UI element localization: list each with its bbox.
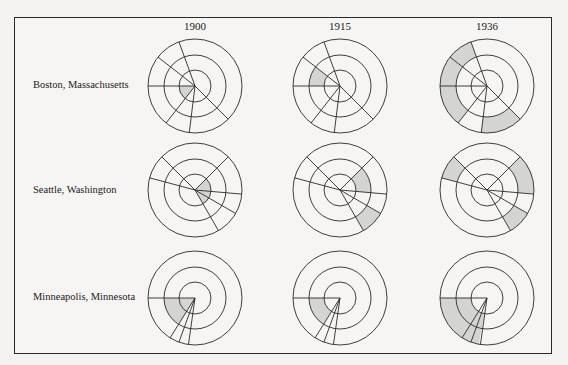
radial-plot-boston-1936: [440, 39, 534, 133]
radial-plot-minneapolis-1936: [440, 251, 534, 345]
ray: [333, 298, 340, 345]
ray: [195, 86, 228, 119]
shaded-sector: [509, 157, 534, 194]
shaded-sector: [481, 108, 520, 133]
ray: [195, 190, 236, 214]
ray: [487, 190, 511, 231]
ray: [340, 190, 381, 214]
ray: [334, 86, 340, 133]
shaded-sector: [351, 168, 371, 193]
radial-plots: [0, 0, 568, 365]
ray: [162, 157, 195, 190]
ray: [189, 86, 195, 133]
radial-plot-seattle-1900: [148, 143, 242, 237]
ray: [340, 190, 364, 231]
shaded-sector: [440, 42, 476, 123]
radial-plot-seattle-1915: [293, 143, 387, 237]
ray: [487, 190, 528, 214]
radial-plot-seattle-1936: [440, 143, 534, 237]
ray: [295, 178, 340, 190]
shaded-sector: [356, 206, 381, 231]
ray: [340, 86, 373, 119]
radial-plot-boston-1900: [148, 39, 242, 133]
ray: [307, 157, 340, 190]
radial-plot-boston-1915: [293, 39, 387, 133]
shaded-sector: [503, 206, 528, 231]
radial-plot-minneapolis-1915: [293, 251, 387, 345]
ray: [195, 157, 228, 190]
ray: [442, 178, 487, 190]
radial-plot-minneapolis-1900: [148, 251, 242, 345]
ray: [150, 178, 195, 190]
